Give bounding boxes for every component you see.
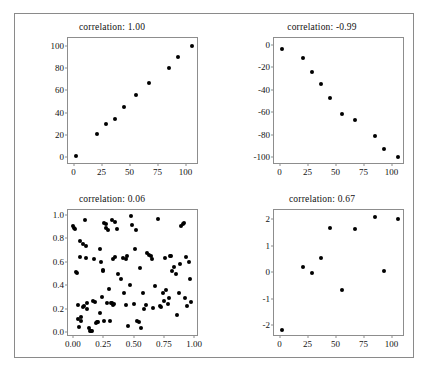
data-point	[132, 302, 136, 306]
data-point	[100, 295, 104, 299]
data-point	[113, 220, 117, 224]
data-point	[183, 296, 187, 300]
data-point	[108, 319, 112, 323]
scatter-panel-grid: correlation: 1.000204060801000255075100c…	[0, 0, 428, 380]
data-point	[133, 247, 137, 251]
data-point	[185, 304, 189, 308]
scatter-panel-1: correlation: 1.000204060801000255075100	[26, 22, 208, 184]
y-tick-label: 0	[60, 152, 69, 162]
data-point	[175, 313, 179, 317]
x-tick-label: 25	[303, 163, 312, 177]
data-point	[96, 320, 100, 324]
data-point	[319, 82, 323, 86]
data-point	[163, 256, 167, 260]
x-tick-label: 75	[359, 335, 368, 349]
data-point	[156, 217, 160, 221]
data-point	[124, 303, 128, 307]
y-tick-label: 0.6	[53, 257, 68, 267]
data-point	[73, 227, 77, 231]
data-point	[115, 227, 119, 231]
data-point	[174, 272, 178, 276]
panel-title: correlation: 0.67	[240, 194, 404, 204]
panel-title: correlation: -0.99	[240, 22, 404, 32]
data-point	[125, 254, 129, 258]
y-tick-label: 0.8	[53, 233, 68, 243]
plot-area: 0-20-40-60-80-1000255075100	[273, 37, 404, 164]
data-point	[319, 256, 323, 260]
x-tick-label: 25	[303, 335, 312, 349]
data-point	[84, 244, 88, 248]
scatter-panel-4: correlation: 0.67210-1-20255075100	[240, 194, 414, 356]
x-tick-label: 50	[331, 163, 340, 177]
data-point	[134, 228, 138, 232]
x-tick-label: 50	[125, 163, 134, 177]
data-point	[144, 303, 148, 307]
data-point	[328, 96, 332, 100]
panel-title: correlation: 1.00	[26, 22, 198, 32]
data-point	[167, 296, 171, 300]
data-point	[77, 325, 81, 329]
data-point	[137, 320, 141, 324]
data-point	[93, 300, 97, 304]
data-point	[301, 56, 305, 60]
y-tick-label: -100	[254, 152, 275, 162]
y-tick-label: 0	[266, 40, 275, 50]
x-tick-label: 75	[359, 163, 368, 177]
data-point	[169, 254, 173, 258]
data-point	[129, 214, 133, 218]
data-point	[189, 300, 193, 304]
x-tick-label: 0.50	[126, 335, 142, 349]
data-point	[159, 305, 163, 309]
data-point	[122, 105, 126, 109]
data-point	[164, 288, 168, 292]
x-tick-label: 0	[277, 163, 282, 177]
data-point	[182, 221, 186, 225]
data-point	[396, 217, 400, 221]
x-tick-label: 0	[277, 335, 282, 349]
scatter-panel-3: correlation: 0.060.00.20.40.60.81.00.000…	[26, 194, 208, 356]
data-point	[167, 66, 171, 70]
y-tick-label: 20	[55, 130, 68, 140]
data-point	[134, 93, 138, 97]
data-point	[151, 306, 155, 310]
data-point	[177, 291, 181, 295]
data-point	[310, 70, 314, 74]
data-point	[85, 301, 89, 305]
y-tick-label: -60	[258, 107, 274, 117]
x-tick-label: 50	[331, 335, 340, 349]
x-tick-label: 25	[97, 163, 106, 177]
data-point	[75, 271, 79, 275]
panel-title: correlation: 0.06	[26, 194, 198, 204]
data-point	[328, 226, 332, 230]
data-point	[280, 328, 284, 332]
y-tick-label: -80	[258, 130, 274, 140]
data-point	[142, 307, 146, 311]
y-tick-label: 0.2	[53, 304, 68, 314]
data-point	[141, 291, 145, 295]
data-point	[95, 132, 99, 136]
data-point	[139, 326, 143, 330]
data-point	[147, 81, 151, 85]
data-point	[104, 222, 108, 226]
y-tick-label: 1.0	[53, 210, 68, 220]
data-point	[122, 291, 126, 295]
data-point	[106, 228, 110, 232]
data-point	[99, 260, 103, 264]
y-tick-label: 40	[55, 108, 68, 118]
data-point	[188, 277, 192, 281]
data-point	[178, 262, 182, 266]
y-tick-label: -1	[263, 294, 275, 304]
data-point	[104, 122, 108, 126]
data-point	[112, 302, 116, 306]
data-point	[382, 269, 386, 273]
data-point	[79, 319, 83, 323]
scatter-panel-2: correlation: -0.990-20-40-60-80-10002550…	[240, 22, 414, 184]
data-point	[76, 303, 80, 307]
data-point	[176, 55, 180, 59]
y-tick-label: 100	[51, 41, 69, 51]
y-tick-label: 2	[266, 214, 275, 224]
y-tick-label: 0	[266, 267, 275, 277]
data-point	[138, 266, 142, 270]
data-point	[116, 272, 120, 276]
data-point	[382, 147, 386, 151]
